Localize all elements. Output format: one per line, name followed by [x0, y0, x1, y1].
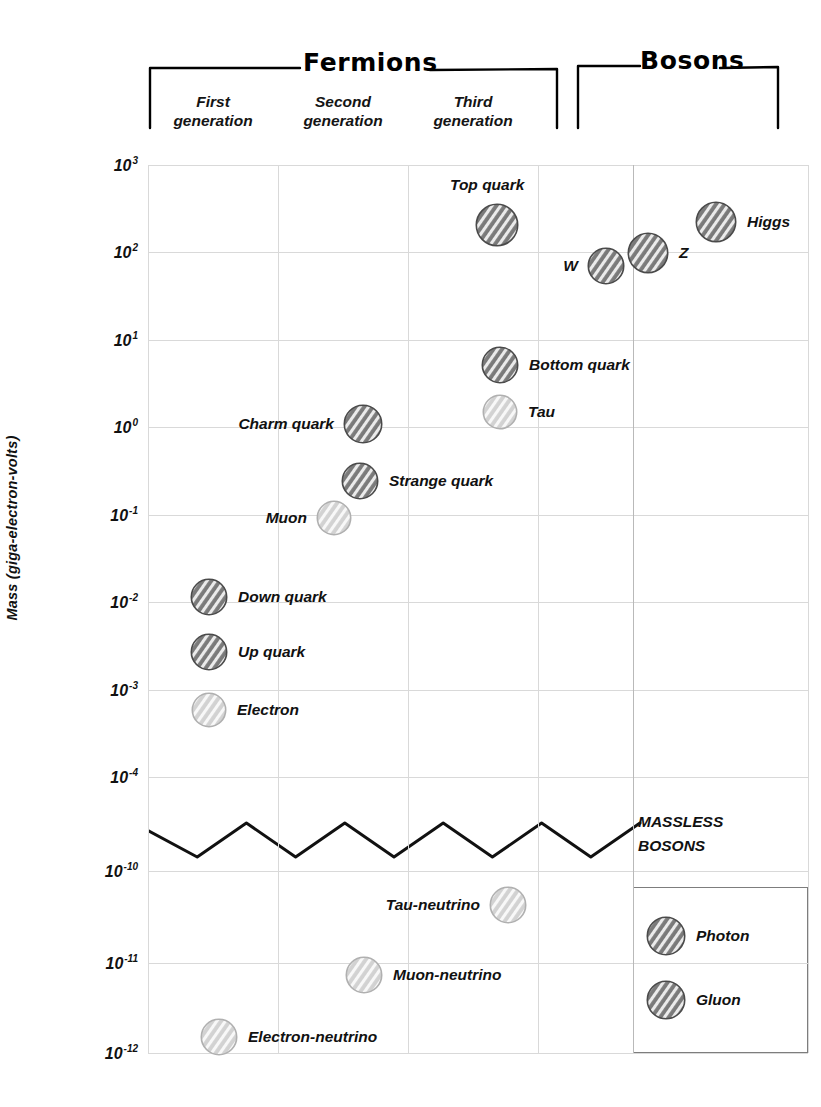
particle-bubble-top-quark[interactable] — [475, 203, 519, 247]
particle-label-z: Z — [679, 244, 688, 262]
particle-label-charm-quark: Charm quark — [238, 415, 334, 433]
y-axis-ticks: 10310210110010-110-210-310-410-1010-1110… — [60, 0, 138, 1107]
gridline-vertical — [808, 165, 809, 1053]
particle-label-electron-neutrino: Electron-neutrino — [248, 1028, 377, 1046]
particle-bubble-strange-quark[interactable] — [341, 462, 379, 500]
y-tick-label: 10-11 — [105, 953, 138, 972]
group-brackets — [0, 0, 821, 165]
particle-bubble-w[interactable] — [587, 247, 625, 285]
gridline-vertical — [538, 165, 539, 1053]
y-tick-label: 101 — [114, 330, 138, 349]
particle-label-up-quark: Up quark — [238, 643, 305, 661]
gridline-vertical — [408, 165, 409, 1053]
gridline-horizontal — [148, 871, 808, 872]
particle-bubble-muon[interactable] — [316, 500, 352, 536]
particle-bubble-photon[interactable] — [646, 916, 686, 956]
gridline-horizontal — [148, 340, 808, 341]
gridline-horizontal — [148, 690, 808, 691]
y-tick-label: 100 — [114, 417, 138, 436]
particle-label-down-quark: Down quark — [238, 588, 327, 606]
y-tick-label: 10-12 — [105, 1043, 138, 1062]
particle-label-tau-neutrino: Tau-neutrino — [386, 896, 480, 914]
particle-bubble-bottom-quark[interactable] — [481, 346, 519, 384]
y-tick-label: 10-4 — [110, 767, 138, 786]
column-label-first-generation: First generation — [148, 92, 278, 130]
particle-label-higgs: Higgs — [747, 213, 790, 231]
chart-header: FermionsBosonsFirst generationSecond gen… — [0, 0, 821, 165]
particle-label-w: W — [563, 257, 578, 275]
particle-bubble-gluon[interactable] — [646, 980, 686, 1020]
gridline-vertical — [633, 165, 634, 1053]
particle-bubble-charm-quark[interactable] — [343, 404, 383, 444]
particle-bubble-electron-neutrino[interactable] — [200, 1018, 238, 1056]
particle-label-tau: Tau — [528, 403, 555, 421]
particle-label-electron: Electron — [237, 701, 299, 719]
gridline-horizontal — [148, 252, 808, 253]
group-label-bosons: Bosons — [640, 46, 745, 75]
gridline-horizontal — [148, 1053, 808, 1054]
gridline-vertical — [148, 165, 149, 1053]
column-label-second-generation: Second generation — [278, 92, 408, 130]
particle-bubble-z[interactable] — [627, 232, 669, 274]
column-label-third-generation: Third generation — [408, 92, 538, 130]
y-tick-label: 10-3 — [110, 680, 138, 699]
gridline-vertical — [278, 165, 279, 1053]
particle-label-bottom-quark: Bottom quark — [529, 356, 630, 374]
y-tick-label: 102 — [114, 242, 138, 261]
particle-bubble-higgs[interactable] — [695, 201, 737, 243]
chart-root: Mass (giga-electron-volts) 1031021011001… — [0, 0, 821, 1107]
particle-label-muon: Muon — [266, 509, 307, 527]
group-label-fermions: Fermions — [303, 48, 438, 77]
particle-bubble-muon-neutrino[interactable] — [345, 956, 383, 994]
massless-bosons-box — [633, 887, 808, 1053]
plot-area: Top quarkHiggsZWBottom quarkTauCharm qua… — [148, 165, 808, 1053]
particle-label-gluon: Gluon — [696, 991, 741, 1009]
particle-label-muon-neutrino: Muon-neutrino — [393, 966, 501, 984]
particle-bubble-up-quark[interactable] — [190, 633, 228, 671]
gridline-horizontal — [148, 963, 808, 964]
particle-bubble-tau-neutrino[interactable] — [489, 886, 527, 924]
particle-label-strange-quark: Strange quark — [389, 472, 493, 490]
y-tick-label: 10-2 — [110, 592, 138, 611]
gridline-horizontal — [148, 165, 808, 166]
y-axis-label: Mass (giga-electron-volts) — [4, 348, 20, 708]
gridline-horizontal — [148, 515, 808, 516]
y-tick-label: 10-10 — [105, 861, 138, 880]
particle-bubble-electron[interactable] — [191, 692, 227, 728]
particle-label-top-quark: Top quark — [450, 176, 524, 194]
y-tick-label: 10-1 — [110, 505, 138, 524]
particle-bubble-tau[interactable] — [482, 394, 518, 430]
massless-bosons-annotation: MASSLESS BOSONS — [638, 810, 723, 858]
particle-label-photon: Photon — [696, 927, 749, 945]
particle-bubble-down-quark[interactable] — [190, 578, 228, 616]
gridline-horizontal — [148, 777, 808, 778]
